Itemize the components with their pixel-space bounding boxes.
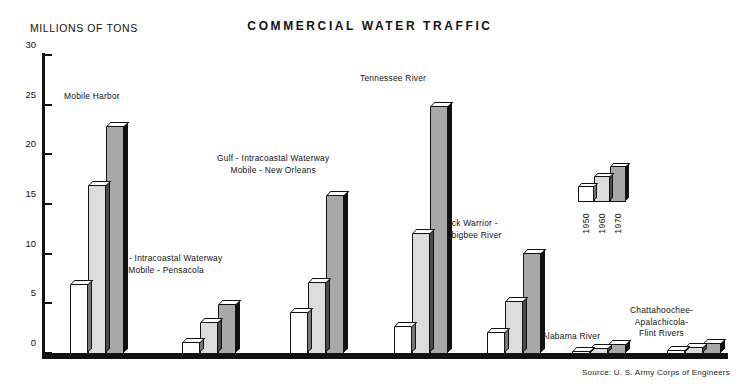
- bar-side-face: [720, 340, 725, 353]
- y-axis-tick: [45, 352, 52, 354]
- bar-side-face: [123, 122, 128, 353]
- bar-1950: [290, 312, 308, 354]
- bar-side-face: [87, 281, 92, 353]
- bar-1950: [394, 326, 412, 354]
- bar-side-face: [540, 249, 545, 353]
- bar-group: [182, 54, 236, 354]
- y-axis-tick: [45, 54, 52, 56]
- bar-side-face: [625, 341, 630, 353]
- legend: 195019601970: [578, 158, 674, 228]
- legend-label-1950: 1950: [581, 213, 591, 234]
- group-label: Alabama River: [542, 331, 600, 343]
- y-axis-tick-label: 30: [14, 39, 36, 50]
- chart-title: COMMERCIAL WATER TRAFFIC: [0, 19, 740, 33]
- bar-1950: [487, 332, 505, 354]
- bar-side-face: [307, 309, 312, 353]
- bar-side-face: [429, 229, 434, 353]
- source-note: Source: U. S. Army Corps of Engineers: [582, 368, 730, 377]
- legend-swatch-side: [609, 173, 613, 201]
- x-axis-baseline: [42, 354, 728, 359]
- legend-swatch-1950: [578, 186, 594, 202]
- bar-1950: [572, 351, 590, 354]
- bar-side-face: [325, 279, 330, 353]
- bar-1950: [70, 284, 88, 354]
- bar-group: [290, 54, 344, 354]
- group-label: Mobile Harbor: [64, 91, 120, 103]
- bar-group: [394, 54, 448, 354]
- bar-side-face: [411, 323, 416, 353]
- group-label: Tennessee River: [360, 73, 426, 85]
- bar-1950: [182, 342, 200, 354]
- bar-side-face: [105, 182, 110, 353]
- legend-label-1970: 1970: [613, 213, 623, 234]
- y-axis-tick-label: 10: [14, 238, 36, 249]
- y-axis-tick: [45, 253, 52, 255]
- bar-side-face: [235, 301, 240, 353]
- group-label: Chattahoochee-Apalachicola-Flint Rivers: [630, 305, 693, 340]
- y-axis-tick: [45, 153, 52, 155]
- chart-canvas: MILLIONS OF TONS COMMERCIAL WATER TRAFFI…: [0, 0, 740, 390]
- bar-side-face: [343, 192, 348, 353]
- y-axis-tick-label: 15: [14, 188, 36, 199]
- y-axis-tick-label: 20: [14, 138, 36, 149]
- y-axis-tick-label: 25: [14, 89, 36, 100]
- bar-side-face: [522, 298, 527, 353]
- legend-swatch-side: [625, 163, 629, 201]
- y-axis-tick-label: 0: [14, 337, 36, 348]
- legend-label-1960: 1960: [597, 213, 607, 234]
- y-axis-tick: [45, 104, 52, 106]
- bar-side-face: [447, 102, 452, 353]
- bar-side-face: [217, 319, 222, 353]
- y-axis-tick: [45, 302, 52, 304]
- y-axis-tick-label: 5: [14, 287, 36, 298]
- y-axis-tick: [45, 203, 52, 205]
- bar-group: [487, 54, 541, 354]
- bar-1950: [667, 350, 685, 354]
- group-label: Gulf - Intracoastal WaterwayMobile - New…: [217, 153, 329, 176]
